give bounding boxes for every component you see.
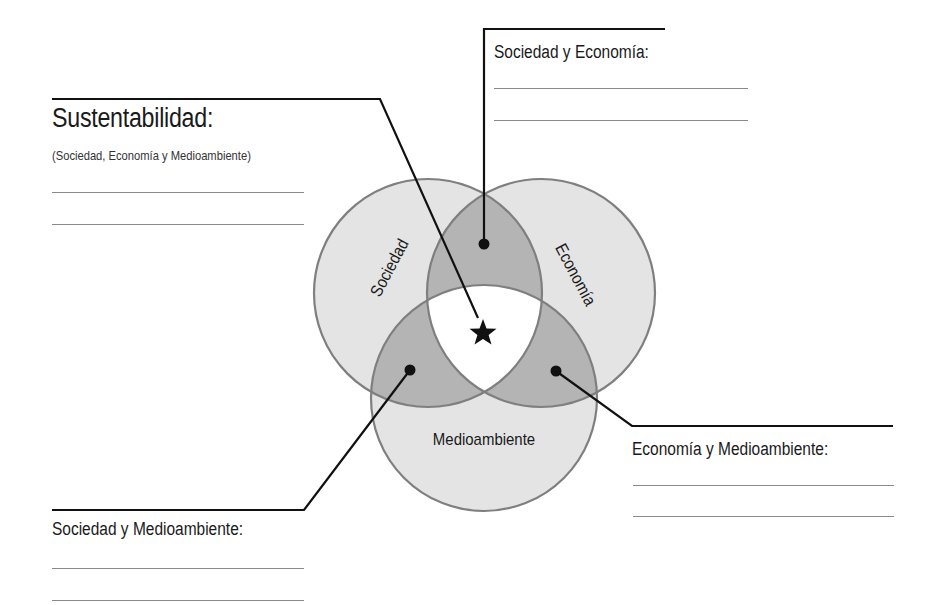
answer-line-sustentabilidad-2[interactable]	[52, 224, 304, 225]
answer-line-economia-medioambiente-2[interactable]	[633, 516, 894, 517]
dot-sociedad-medioambiente	[405, 365, 416, 376]
leader-line-sociedad-medioambiente	[52, 370, 410, 510]
answer-line-sociedad-medioambiente-1[interactable]	[52, 568, 304, 569]
economia-medioambiente-title: Economía y Medioambiente:	[632, 439, 828, 460]
dot-sociedad-economia	[479, 239, 490, 250]
answer-line-economia-medioambiente-1[interactable]	[633, 485, 894, 486]
sustentabilidad-title: Sustentabilidad:	[52, 103, 213, 134]
answer-line-sociedad-medioambiente-2[interactable]	[52, 600, 304, 601]
answer-line-sociedad-economia-1[interactable]	[494, 88, 748, 89]
answer-line-sociedad-economia-2[interactable]	[494, 120, 748, 121]
label-medioambiente: Medioambiente	[414, 430, 555, 450]
dot-economia-medioambiente	[551, 366, 562, 377]
venn-diagram	[0, 0, 945, 605]
label-medioambiente-text: Medioambiente	[433, 430, 535, 449]
sociedad-medioambiente-title: Sociedad y Medioambiente:	[52, 519, 243, 540]
answer-line-sustentabilidad-1[interactable]	[52, 192, 304, 193]
sociedad-economia-title: Sociedad y Economía:	[494, 42, 649, 63]
sustentabilidad-subtitle: (Sociedad, Economía y Medioambiente)	[52, 148, 251, 163]
